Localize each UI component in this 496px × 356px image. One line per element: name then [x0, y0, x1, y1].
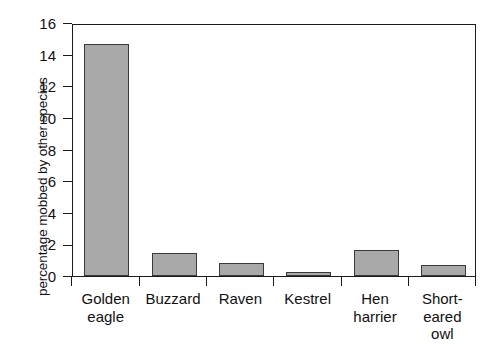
x-tick-label: Short- eared owl — [409, 290, 476, 343]
y-tick-mark — [63, 118, 72, 119]
x-tick-label: Buzzard — [139, 290, 206, 308]
x-tick-label: Raven — [207, 290, 274, 308]
bar — [354, 250, 399, 276]
y-tick-label: 6 — [10, 174, 56, 189]
plot-area — [72, 24, 476, 277]
x-tick-mark — [341, 277, 342, 286]
y-tick-label: 16 — [10, 16, 56, 31]
y-tick-mark — [63, 23, 72, 24]
bar — [219, 263, 264, 276]
x-tick-label: Kestrel — [274, 290, 341, 308]
x-tick-mark — [71, 277, 72, 286]
x-tick-mark — [273, 277, 274, 286]
y-tick-mark — [63, 55, 72, 56]
y-tick-label: 8 — [10, 143, 56, 158]
y-tick-mark — [63, 86, 72, 87]
bar — [152, 253, 197, 276]
bar-series — [73, 25, 475, 276]
bar-chart-figure: percentage mobbed by other species 02468… — [0, 0, 496, 356]
y-tick-label: 2 — [10, 237, 56, 252]
y-tick-mark — [63, 245, 72, 246]
y-tick-mark — [63, 150, 72, 151]
y-tick-mark — [63, 181, 72, 182]
x-tick-mark — [206, 277, 207, 286]
x-tick-label: Golden eagle — [72, 290, 139, 325]
y-tick-label: 0 — [10, 269, 56, 284]
x-tick-mark — [408, 277, 409, 286]
x-tick-mark — [475, 277, 476, 286]
bar — [84, 44, 129, 276]
x-tick-label: Hen harrier — [341, 290, 408, 325]
y-tick-label: 4 — [10, 206, 56, 221]
y-tick-label: 12 — [10, 79, 56, 94]
y-tick-label: 10 — [10, 111, 56, 126]
bar — [286, 272, 331, 276]
bar — [421, 265, 466, 276]
y-tick-label: 14 — [10, 48, 56, 63]
x-tick-mark — [139, 277, 140, 286]
y-tick-mark — [63, 213, 72, 214]
